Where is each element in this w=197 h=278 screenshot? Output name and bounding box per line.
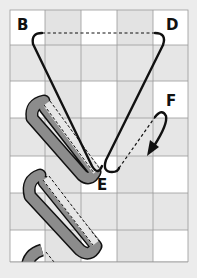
- label-e: E: [97, 176, 107, 194]
- weave-diagram: B D F E: [0, 0, 197, 278]
- label-f: F: [166, 92, 176, 110]
- label-d: D: [166, 16, 178, 34]
- label-b: B: [17, 16, 28, 34]
